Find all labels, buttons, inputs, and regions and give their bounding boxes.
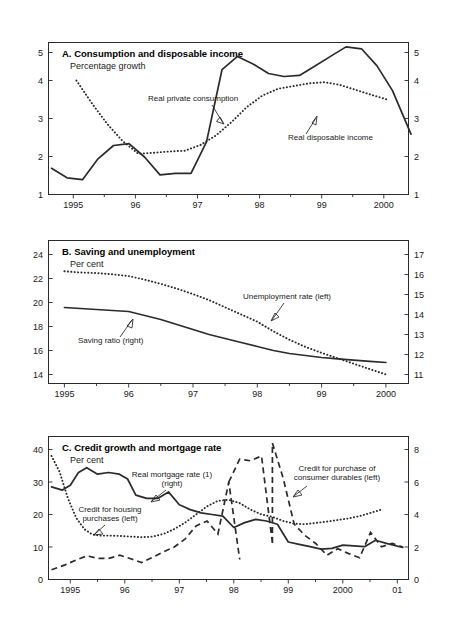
panel-b-ytick-left-14: 14	[33, 370, 43, 380]
series-real-disposable-income	[76, 81, 386, 154]
panel-c-ytick-right-0: 0	[414, 575, 419, 585]
panel-c-xtick-01: 01	[392, 585, 402, 595]
panel-a-ytick-left-2: 2	[38, 152, 43, 162]
panel-b-ytick-right-11: 11	[414, 370, 423, 380]
panel-b-ytick-right-15: 15	[414, 290, 424, 300]
panel-b-ytick-left-16: 16	[33, 346, 43, 356]
panel-a-ytick-right-1: 1	[414, 190, 419, 200]
panel-c-ytick-right-6: 6	[414, 478, 419, 488]
panel-a-ytick-left-1: 1	[38, 190, 43, 200]
panel-c-y-axis-right: 0 2 4 6 8	[405, 445, 420, 585]
panel-c-ytick-right-4: 4	[414, 510, 419, 520]
panel-b-ytick-left-20: 20	[33, 298, 43, 308]
panel-b-xtick-96: 96	[124, 389, 134, 399]
panel-c-annotation-durables-line2: consumer durables (left)	[294, 473, 381, 482]
economic-indicators-figure: 1 2 3 4 5 1 2 3 4 5	[0, 0, 473, 638]
panel-b-ytick-left-24: 24	[33, 250, 43, 260]
panel-b-saving-unemployment: 14 16 18 20 22 24 11 12 13 14 15 1	[0, 228, 473, 414]
panel-b-ytick-right-13: 13	[414, 330, 424, 340]
panel-c-ytick-left-30: 30	[33, 478, 43, 488]
panel-b-xtick-99: 99	[317, 389, 327, 399]
panel-c-annotation-mortgage-line1: Real mortgage rate (1)	[132, 470, 213, 479]
panel-b-y-axis-right: 11 12 13 14 15 16 17	[405, 250, 425, 380]
panel-a-ytick-left-3: 3	[38, 114, 43, 124]
panel-a-leader-income	[306, 118, 316, 134]
panel-c-leader-housing	[95, 525, 105, 534]
panel-b-xtick-2000: 2000	[376, 389, 396, 399]
panel-c-ytick-left-10: 10	[33, 543, 43, 553]
panel-c-annotation-durables-line1: Credit for purchase of	[299, 464, 377, 473]
panel-a-svg: 1 2 3 4 5 1 2 3 4 5	[0, 30, 473, 220]
panel-a-xtick-98: 98	[255, 200, 265, 210]
panel-b-ytick-right-17: 17	[414, 250, 424, 260]
panel-c-xtick-2000: 2000	[333, 585, 353, 595]
panel-a-annotation-consumption: Real private consumption	[148, 94, 238, 103]
panel-b-ytick-left-22: 22	[33, 274, 43, 284]
panel-b-xtick-98: 98	[252, 389, 262, 399]
panel-b-annotation-unemployment: Unemployment rate (left)	[243, 292, 331, 301]
panel-a-ytick-right-2: 2	[414, 152, 419, 162]
panel-a-xtick-1995: 1995	[63, 200, 83, 210]
panel-b-ytick-right-14: 14	[414, 310, 424, 320]
panel-b-annotation-saving: Saving ratio (right)	[78, 336, 144, 345]
panel-a-ytick-left-4: 4	[38, 76, 43, 86]
panel-a-ytick-right-5: 5	[414, 48, 419, 58]
panel-c-ytick-left-40: 40	[33, 445, 43, 455]
panel-c-xtick-99: 99	[283, 585, 293, 595]
panel-a-x-axis: 1995 96 97 98 99 2000	[63, 195, 394, 211]
panel-c-credit-growth-mortgage-rate: 0 10 20 30 40 0 2 4 6 8	[0, 424, 473, 622]
panel-b-ytick-right-16: 16	[414, 270, 424, 280]
panel-c-ytick-left-20: 20	[33, 510, 43, 520]
panel-b-title: B. Saving and unemployment	[62, 246, 196, 257]
panel-c-leader-durables	[294, 486, 307, 496]
panel-c-xtick-97: 97	[174, 585, 184, 595]
panel-b-subtitle: Per cent	[70, 259, 104, 269]
panel-c-xtick-1995: 1995	[60, 585, 80, 595]
series-saving-ratio	[64, 308, 386, 363]
panel-c-annotation-housing-line2: purchases (left)	[82, 514, 137, 523]
panel-c-ytick-right-2: 2	[414, 543, 419, 553]
panel-a-xtick-96: 96	[130, 200, 140, 210]
panel-a-xtick-99: 99	[317, 200, 327, 210]
panel-a-ytick-left-5: 5	[38, 48, 43, 58]
panel-b-y-axis-left: 14 16 18 20 22 24	[33, 250, 53, 380]
panel-a-ytick-right-4: 4	[414, 76, 419, 86]
panel-c-ytick-left-0: 0	[38, 575, 43, 585]
panel-c-annotation-housing-line1: Credit for housing	[78, 505, 141, 514]
panel-b-ytick-left-18: 18	[33, 322, 43, 332]
panel-c-x-axis: 1995 96 97 98 99 2000 01	[60, 580, 402, 596]
panel-c-y-axis-left: 0 10 20 30 40	[33, 445, 53, 585]
panel-b-x-axis: 1995 96 97 98 99 2000	[54, 384, 396, 400]
panel-c-subtitle: Per cent	[70, 455, 104, 465]
panel-a-xtick-97: 97	[192, 200, 202, 210]
panel-a-subtitle: Percentage growth	[70, 61, 146, 71]
panel-b-ytick-right-12: 12	[414, 350, 424, 360]
panel-c-title: C. Credit growth and mortgage rate	[62, 442, 221, 453]
panel-b-xtick-97: 97	[188, 389, 198, 399]
panel-a-y-axis-left: 1 2 3 4 5	[38, 48, 53, 200]
panel-a-consumption-disposable-income: 1 2 3 4 5 1 2 3 4 5	[0, 30, 473, 220]
panel-a-title: A. Consumption and disposable income	[62, 48, 243, 59]
panel-c-svg: 0 10 20 30 40 0 2 4 6 8	[0, 424, 473, 622]
panel-a-xtick-2000: 2000	[374, 200, 394, 210]
panel-b-xtick-1995: 1995	[54, 389, 74, 399]
panel-c-xtick-98: 98	[229, 585, 239, 595]
panel-c-xtick-96: 96	[120, 585, 130, 595]
panel-a-annotation-income: Real disposable income	[288, 133, 373, 142]
panel-a-ytick-right-3: 3	[414, 114, 419, 124]
panel-c-annotation-mortgage-line2: (right)	[162, 479, 183, 488]
panel-c-ytick-right-8: 8	[414, 445, 419, 455]
panel-b-svg: 14 16 18 20 22 24 11 12 13 14 15 1	[0, 228, 473, 414]
